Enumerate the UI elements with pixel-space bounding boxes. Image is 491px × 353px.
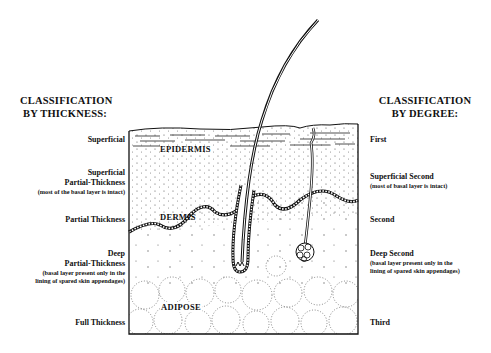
dermis-label: DERMIS [160, 212, 196, 222]
epidermis-label: EPIDERMIS [160, 144, 211, 154]
skin-cross-section-diagram [0, 0, 491, 353]
adipose-label: ADIPOSE [160, 302, 202, 312]
